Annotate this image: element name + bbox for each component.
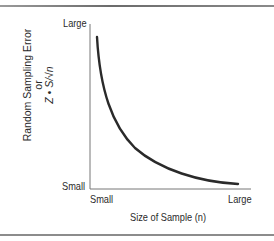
y-axis-title: Random Sampling Error or Z • S/√n <box>22 10 55 160</box>
bottom-rule <box>0 234 274 236</box>
x-axis-small-label: Small <box>90 193 113 205</box>
x-axis-title: Size of Sample (n) <box>130 211 206 223</box>
y-axis-small-label: Small <box>62 180 85 192</box>
sampling-error-curve <box>97 37 238 184</box>
y-axis-title-formula: Z • S/√n <box>44 10 55 160</box>
x-axis-large-label: Large <box>228 193 252 205</box>
y-axis-large-label: Large <box>63 17 87 29</box>
